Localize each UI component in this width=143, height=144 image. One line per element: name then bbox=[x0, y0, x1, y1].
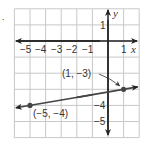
point-label-1-neg3: (1, −3) bbox=[62, 68, 91, 79]
y-tick-label: −4 bbox=[94, 100, 106, 111]
point-1-neg3 bbox=[121, 87, 126, 92]
y-axis-label: y bbox=[112, 7, 118, 19]
point-label-neg5-neg4: (−5, −4) bbox=[33, 108, 68, 119]
point-neg5-neg4 bbox=[27, 103, 32, 108]
annotation-arrow bbox=[99, 74, 120, 86]
x-tick-label: −2 bbox=[66, 44, 78, 55]
x-tick-label: −1 bbox=[82, 44, 94, 55]
x-tick-label: −4 bbox=[35, 44, 47, 55]
x-tick-label: −3 bbox=[51, 44, 63, 55]
coordinate-plane: −5 −4 −3 −2 −1 1 x 1 −4 −5 y (1, −3) (−5… bbox=[0, 0, 143, 144]
y-tick-label: 1 bbox=[100, 20, 106, 31]
y-tick-label: −5 bbox=[94, 116, 106, 127]
x-tick-label: 1 bbox=[121, 44, 127, 55]
x-tick-label: −5 bbox=[20, 44, 32, 55]
x-axis-label: x bbox=[130, 43, 136, 55]
